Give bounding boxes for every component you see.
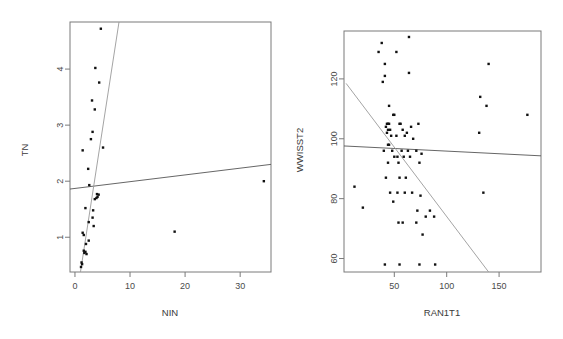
data-point xyxy=(418,162,420,164)
data-point xyxy=(263,180,265,182)
data-point xyxy=(407,150,409,152)
x-tick-label: 20 xyxy=(180,281,190,291)
data-point xyxy=(81,149,83,151)
right-tick-labels: 501001506080100120 xyxy=(329,71,506,291)
right-regression-lines xyxy=(344,83,541,272)
data-point xyxy=(411,191,413,193)
data-point xyxy=(395,135,397,137)
left-plot-svg: 01020301234 NIN TN xyxy=(0,0,282,339)
data-point xyxy=(409,156,411,158)
data-point xyxy=(388,105,390,107)
data-point xyxy=(404,135,406,137)
data-point xyxy=(408,36,410,38)
data-point xyxy=(385,176,387,178)
data-point xyxy=(94,108,96,110)
data-point xyxy=(388,144,390,146)
data-point xyxy=(94,67,96,69)
data-point xyxy=(420,153,422,155)
scatterplot-figure: 01020301234 NIN TN 501001506080100120 RA… xyxy=(0,0,563,339)
data-point xyxy=(487,63,489,65)
data-point xyxy=(398,176,400,178)
data-point xyxy=(81,263,83,265)
right-plot-svg: 501001506080100120 RAN1T1 WWISST2 xyxy=(281,0,563,339)
x-tick-label: 10 xyxy=(125,281,135,291)
data-point xyxy=(421,233,423,235)
data-point xyxy=(392,200,394,202)
data-point xyxy=(391,150,393,152)
regression-line-steep-fit xyxy=(346,83,489,272)
data-point xyxy=(92,209,94,211)
data-point xyxy=(383,150,385,152)
y-tick-label: 60 xyxy=(329,254,339,264)
data-point xyxy=(418,263,420,265)
data-point xyxy=(385,126,387,128)
data-point xyxy=(397,162,399,164)
data-point xyxy=(412,138,414,140)
data-point xyxy=(485,105,487,107)
data-point xyxy=(102,146,104,148)
data-point xyxy=(415,150,417,152)
data-point xyxy=(85,253,87,255)
data-point xyxy=(396,156,398,158)
data-point xyxy=(429,209,431,211)
data-point xyxy=(434,263,436,265)
data-point xyxy=(397,221,399,223)
y-tick-label: 80 xyxy=(329,194,339,204)
data-point xyxy=(381,42,383,44)
data-point xyxy=(482,191,484,193)
data-point xyxy=(83,252,85,254)
y-tick-label: 120 xyxy=(329,71,339,86)
y-tick-label: 3 xyxy=(55,123,65,128)
data-point xyxy=(362,206,364,208)
data-point xyxy=(384,63,386,65)
data-point xyxy=(88,184,90,186)
data-point xyxy=(90,138,92,140)
y-tick-label: 100 xyxy=(329,131,339,146)
y-tick-label: 1 xyxy=(55,235,65,240)
data-point xyxy=(84,207,86,209)
data-point xyxy=(353,185,355,187)
y-tick-label: 4 xyxy=(55,67,65,72)
data-point xyxy=(91,131,93,133)
panel-nin-tn: 01020301234 NIN TN xyxy=(0,0,282,339)
data-point xyxy=(173,230,175,232)
right-plot-frame xyxy=(344,31,541,272)
data-point xyxy=(404,191,406,193)
data-point xyxy=(433,215,435,217)
data-point xyxy=(98,81,100,83)
data-point xyxy=(384,263,386,265)
data-point xyxy=(88,221,90,223)
data-point xyxy=(419,194,421,196)
x-tick-label: 50 xyxy=(389,281,399,291)
data-point xyxy=(415,221,417,223)
data-point xyxy=(377,51,379,53)
x-tick-label: 150 xyxy=(492,281,507,291)
data-point xyxy=(393,156,395,158)
data-point xyxy=(83,234,85,236)
data-point xyxy=(92,225,94,227)
left-xaxis-title: NIN xyxy=(162,307,179,318)
left-yaxis-title: TN xyxy=(19,144,30,157)
data-point xyxy=(526,114,528,116)
data-point xyxy=(382,81,384,83)
data-point xyxy=(387,129,389,131)
data-point xyxy=(399,123,401,125)
data-point xyxy=(91,216,93,218)
data-point xyxy=(97,193,99,195)
data-point xyxy=(400,150,402,152)
x-tick-label: 100 xyxy=(439,281,454,291)
data-point xyxy=(390,135,392,137)
data-point xyxy=(85,243,87,245)
data-point xyxy=(87,168,89,170)
regression-line-steep-fit xyxy=(80,22,119,272)
right-axis-ticks xyxy=(339,79,499,277)
data-point xyxy=(387,162,389,164)
data-point xyxy=(94,198,96,200)
data-point xyxy=(416,209,418,211)
data-point xyxy=(478,132,480,134)
data-point xyxy=(408,72,410,74)
data-point xyxy=(398,263,400,265)
data-point xyxy=(80,266,82,268)
regression-line-shallow-fit xyxy=(70,164,271,189)
data-point xyxy=(401,221,403,223)
